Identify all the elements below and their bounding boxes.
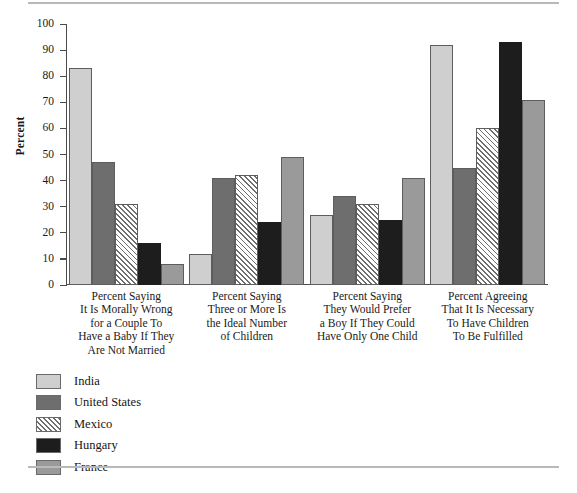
bar-hungary: [499, 42, 522, 285]
legend-swatch-icon: [36, 438, 61, 453]
y-tick-label: 10: [20, 253, 54, 265]
bar-united-states: [92, 162, 115, 285]
bar-india: [310, 215, 333, 285]
bar-hungary: [138, 243, 161, 285]
legend-item-united-states: United States: [36, 393, 276, 413]
y-tick-label: 70: [20, 96, 54, 108]
bar-france: [161, 264, 184, 285]
bar-india: [69, 68, 92, 285]
y-tick-label: 90: [20, 44, 54, 56]
y-tick-label: 0: [20, 279, 54, 291]
bar-india: [430, 45, 453, 285]
bar-hungary: [379, 220, 402, 285]
y-tick-label: 40: [20, 175, 54, 187]
y-tick-label: 50: [20, 149, 54, 161]
x-category-label: Percent Saying Three or More Is the Idea…: [187, 290, 308, 344]
chart-legend: IndiaUnited StatesMexicoHungaryFrance: [36, 371, 276, 479]
x-category-label: Percent Saying They Would Prefer a Boy I…: [307, 290, 428, 344]
bar-group: [307, 24, 428, 285]
x-category-label: Percent Saying It Is Morally Wrong for a…: [66, 290, 187, 357]
bar-mexico: [476, 128, 499, 285]
bar-group: [66, 24, 187, 285]
y-tick-label: 30: [20, 201, 54, 213]
legend-label: Mexico: [74, 418, 112, 431]
legend-label: India: [74, 375, 100, 388]
bar-france: [402, 178, 425, 285]
bar-united-states: [333, 196, 356, 285]
legend-swatch-icon: [36, 374, 61, 389]
bar-india: [189, 254, 212, 285]
plot-area: Percent 1009080706050403020100 Percent S…: [0, 0, 577, 360]
legend-swatch-icon: [36, 417, 61, 432]
legend-item-hungary: Hungary: [36, 436, 276, 456]
bottom-divider-rule: [28, 466, 559, 468]
bar-groups: [66, 24, 548, 285]
bar-mexico: [356, 204, 379, 285]
bar-mexico: [115, 204, 138, 285]
x-category-label: Percent Agreeing That It Is Necessary To…: [428, 290, 549, 344]
bar-hungary: [258, 222, 281, 285]
y-tick-label: 60: [20, 122, 54, 134]
chart-page: Percent 1009080706050403020100 Percent S…: [0, 0, 577, 493]
y-tick-label: 100: [20, 18, 54, 30]
bar-group: [428, 24, 549, 285]
y-tick-label: 80: [20, 70, 54, 82]
bar-france: [522, 100, 545, 285]
legend-label: Hungary: [74, 439, 118, 452]
bar-france: [281, 157, 304, 285]
bar-united-states: [453, 168, 476, 285]
bar-group: [187, 24, 308, 285]
legend-item-india: India: [36, 371, 276, 391]
y-tick-label: 20: [20, 227, 54, 239]
legend-swatch-icon: [36, 395, 61, 410]
legend-item-mexico: Mexico: [36, 414, 276, 434]
bar-mexico: [235, 175, 258, 285]
x-axis-category-labels: Percent Saying It Is Morally Wrong for a…: [66, 290, 548, 360]
bar-united-states: [212, 178, 235, 285]
legend-label: United States: [74, 396, 141, 409]
